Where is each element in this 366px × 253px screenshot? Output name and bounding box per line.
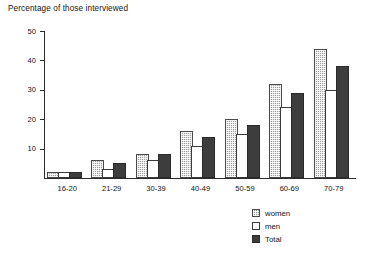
bar-group xyxy=(89,31,133,178)
bar-total-50-59 xyxy=(247,125,260,178)
legend-label: men xyxy=(265,222,280,231)
bar-total-60-69 xyxy=(291,93,304,178)
bar-group xyxy=(312,31,356,178)
x-axis-line xyxy=(45,178,356,179)
legend-swatch-icon xyxy=(252,235,260,243)
legend-swatch-icon xyxy=(252,209,260,217)
x-axis-label-21-29: 21-29 xyxy=(89,184,133,193)
bar-total-21-29 xyxy=(113,163,126,178)
plot-area xyxy=(45,31,356,178)
y-axis-tick-label: 30 xyxy=(14,85,36,94)
bar-chart: Percentage of those interviewed 10203040… xyxy=(0,0,366,253)
x-axis-label-30-39: 30-39 xyxy=(134,184,178,193)
legend-label: women xyxy=(265,209,290,218)
legend-swatch-icon xyxy=(252,222,260,230)
legend-label: Total xyxy=(265,235,281,244)
bar-group xyxy=(178,31,222,178)
y-axis-tick-label: 50 xyxy=(14,27,36,36)
bar-group xyxy=(267,31,311,178)
bar-total-16-20 xyxy=(69,172,82,178)
legend-item-women[interactable]: women xyxy=(252,207,290,219)
y-axis-tick-label: 40 xyxy=(14,56,36,65)
bar-group xyxy=(223,31,267,178)
x-axis-label-16-20: 16-20 xyxy=(45,184,89,193)
x-axis-label-70-79: 70-79 xyxy=(312,184,356,193)
x-axis-label-50-59: 50-59 xyxy=(223,184,267,193)
bar-total-30-39 xyxy=(158,154,171,178)
y-axis-tick-label: 20 xyxy=(14,115,36,124)
bar-total-40-49 xyxy=(202,137,215,178)
bar-total-70-79 xyxy=(336,66,349,178)
y-axis-tick-label: 10 xyxy=(14,144,36,153)
chart-legend: womenmenTotal xyxy=(252,207,290,246)
bar-group xyxy=(134,31,178,178)
bar-group xyxy=(45,31,89,178)
legend-item-total[interactable]: Total xyxy=(252,233,290,245)
x-axis-label-40-49: 40-49 xyxy=(178,184,222,193)
chart-title: Percentage of those interviewed xyxy=(8,4,128,13)
legend-item-men[interactable]: men xyxy=(252,220,290,232)
x-axis-label-60-69: 60-69 xyxy=(267,184,311,193)
